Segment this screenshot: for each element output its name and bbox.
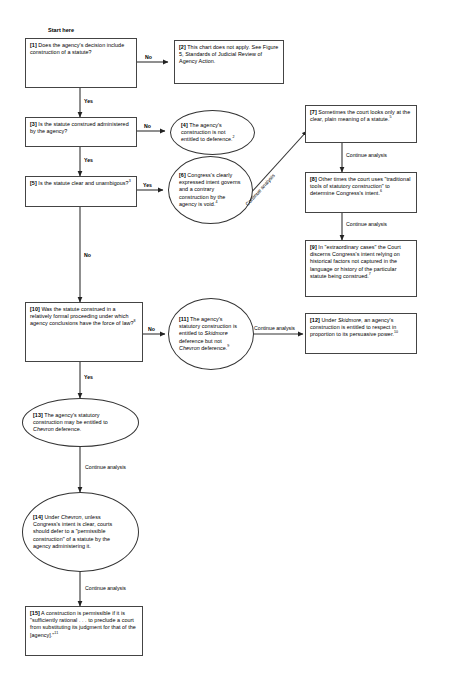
flowchart-canvas: Start here [1] Does the agency's decisio… (0, 0, 464, 683)
node-11-note: 9 (227, 344, 229, 348)
node-7-body: Sometimes the court looks only at the cl… (310, 109, 410, 122)
edge-label-continue-14-15: Continue analysis (85, 585, 126, 591)
node-3-index: [3] (30, 121, 37, 127)
node-12-text: [12] Under Skidmore, an agency's constru… (306, 314, 416, 342)
edge-label-no-1: No (145, 54, 152, 60)
node-13-text: [13] The agency's statutory construction… (23, 412, 138, 434)
node-6-text: [6] Congress's clearly expressed intent … (169, 172, 252, 208)
node-4-text: [4] The agency's construction is not ent… (171, 122, 254, 144)
node-10-note: 8 (134, 320, 136, 324)
node-11-body-c: deference. (200, 345, 228, 351)
node-10-index: [10] (30, 306, 40, 312)
node-2-text: [2] This chart does not apply. See Figur… (175, 41, 283, 69)
node-14-text: [14] Under Chevron, unless Congress's in… (23, 514, 138, 550)
node-15-box[interactable]: [15] A construction is permissible if it… (25, 606, 143, 656)
node-9-index: [9] (310, 244, 317, 250)
node-8-body: Other times the court uses "traditional … (310, 176, 410, 196)
node-3-box[interactable]: [3] Is the statute construed administere… (25, 117, 137, 147)
edge-label-no-3: No (144, 123, 151, 129)
node-14-lead: Under (44, 514, 61, 520)
node-13-em-chevron: Chevron (33, 426, 54, 432)
node-12-note: 10 (394, 331, 398, 335)
node-4-ellipse[interactable]: [4] The agency's construction is not ent… (170, 110, 255, 155)
node-2-box[interactable]: [2] This chart does not apply. See Figur… (174, 40, 284, 84)
node-1-index: [1] (30, 42, 37, 48)
node-9-body: In "extraordinary cases" the Court disce… (310, 244, 401, 279)
start-here-label: Start here (48, 27, 74, 33)
node-11-body-b: deference but not (179, 338, 222, 344)
node-4-note: 2 (233, 135, 235, 139)
edge-label-no-10: No (148, 326, 155, 332)
node-15-text: [15] A construction is permissible if it… (26, 607, 142, 642)
node-7-note: 5 (389, 115, 391, 119)
node-2-body: This chart does not apply. See Figure 5,… (179, 44, 278, 64)
node-11-em-chevron: Chevron (179, 345, 200, 351)
edge-label-yes-5: Yes (143, 182, 152, 188)
node-6-body: Congress's clearly expressed intent gove… (179, 172, 241, 207)
edge-label-continue-13-14: Continue analysis (85, 464, 126, 470)
node-13-body-a: The agency's statutory construction may … (33, 412, 108, 425)
node-3-body: Is the statute construed administered by… (30, 121, 129, 134)
node-10-text: [10] Was the statute construed in a rela… (26, 303, 142, 331)
node-14-ellipse[interactable]: [14] Under Chevron, unless Congress's in… (22, 492, 139, 572)
node-4-index: [4] (181, 122, 188, 128)
node-11-em-skidmore: Skidmore (205, 330, 228, 336)
node-9-text: [9] In "extraordinary cases" the Court d… (306, 241, 416, 283)
node-9-box[interactable]: [9] In "extraordinary cases" the Court d… (305, 240, 417, 297)
node-13-index: [13] (33, 412, 43, 418)
node-6-note: 4 (215, 200, 217, 204)
node-11-ellipse[interactable]: [11] The agency's statutory construction… (168, 298, 254, 370)
node-1-text: [1] Does the agency's decision include c… (26, 39, 136, 59)
node-5-body: Is the statute clear and unambigous? (38, 180, 128, 186)
node-11-text: [11] The agency's statutory construction… (169, 316, 253, 352)
node-10-box[interactable]: [10] Was the statute construed in a rela… (25, 302, 143, 362)
node-6-ellipse[interactable]: [6] Congress's clearly expressed intent … (168, 156, 253, 224)
edge-label-no-5: No (84, 252, 91, 258)
node-15-body: A construction is permissible if it is "… (30, 610, 136, 638)
node-8-note: 6 (380, 190, 382, 194)
top-faint-artifact (24, 1, 25, 7)
node-13-ellipse[interactable]: [13] The agency's statutory construction… (22, 398, 139, 447)
edge-label-continue-11-12: Continue analysis (254, 325, 295, 331)
node-9-note: 7 (369, 272, 371, 276)
node-6-index: [6] (179, 172, 186, 178)
node-5-box[interactable]: [5] Is the statute clear and unambigous?… (25, 176, 137, 207)
edge-label-yes-3: Yes (84, 157, 93, 163)
node-5-index: [5] (30, 180, 37, 186)
edge-label-continue-8-9: Continue analysis (346, 221, 387, 227)
node-12-index: [12] (310, 317, 320, 323)
node-7-text: [7] Sometimes the court looks only at th… (306, 106, 416, 126)
node-15-index: [15] (30, 610, 40, 616)
node-7-index: [7] (310, 109, 317, 115)
node-5-text: [5] Is the statute clear and unambigous?… (26, 177, 136, 190)
node-12-box[interactable]: [12] Under Skidmore, an agency's constru… (305, 313, 417, 354)
node-4-body: The agency's construction is not entitle… (181, 122, 233, 142)
node-14-index: [14] (33, 514, 43, 520)
node-12-lead: Under (321, 317, 338, 323)
node-1-box[interactable]: [1] Does the agency's decision include c… (25, 38, 137, 88)
node-8-index: [8] (310, 176, 317, 182)
node-8-text: [8] Other times the court uses "traditio… (306, 173, 416, 201)
node-7-box[interactable]: [7] Sometimes the court looks only at th… (305, 105, 417, 143)
node-12-em-skidmore: Skidmore (338, 317, 361, 323)
edge-label-yes-1: Yes (84, 98, 93, 104)
node-14-em-chevron: Chevron (61, 514, 82, 520)
node-2-index: [2] (179, 44, 186, 50)
node-11-index: [11] (179, 316, 189, 322)
node-1-body: Does the agency's decision include const… (30, 42, 124, 55)
node-15-note: 11 (54, 631, 58, 635)
node-8-box[interactable]: [8] Other times the court uses "traditio… (305, 172, 417, 213)
node-10-body: Was the statute construed in a relativel… (30, 306, 134, 326)
edge-label-yes-10: Yes (84, 374, 93, 380)
node-5-note: 3 (129, 179, 131, 183)
edge-label-continue-7-8: Continue analysis (346, 152, 387, 158)
node-13-body-b: deference. (54, 426, 82, 432)
node-3-text: [3] Is the statute construed administere… (26, 118, 136, 138)
